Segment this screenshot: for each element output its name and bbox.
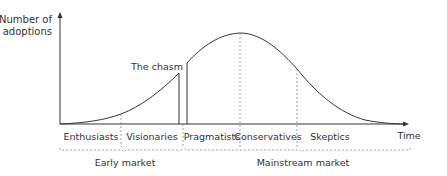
segment-label-enthusiasts: Enthusiasts (64, 131, 119, 142)
adoption-lifecycle-diagram: Number of adoptions Time The chasm Enthu… (0, 0, 447, 176)
y-axis (58, 12, 63, 124)
segment-label-pragmatists: Pragmatists (184, 131, 240, 142)
segment-label-conservatives: Conservatives (234, 131, 301, 142)
x-axis (60, 122, 409, 127)
curve-early-market (60, 73, 179, 124)
segment-label-visionaries: Visionaries (126, 131, 178, 142)
y-axis-label-line2: adoptions (3, 26, 52, 37)
bracket-early-market (60, 148, 183, 152)
segment-dividers (121, 33, 297, 147)
x-axis-label: Time (396, 130, 420, 141)
y-axis-arrow-icon (58, 12, 63, 18)
market-label-early: Early market (95, 157, 156, 168)
curve-mainstream-market (187, 33, 405, 124)
chasm-label: The chasm (130, 61, 183, 72)
bracket-mainstream-market (185, 148, 410, 152)
y-axis-label-line1: Number of (0, 14, 52, 25)
segment-label-skeptics: Skeptics (310, 131, 350, 142)
market-label-mainstream: Mainstream market (257, 157, 350, 168)
market-brackets (60, 148, 410, 152)
